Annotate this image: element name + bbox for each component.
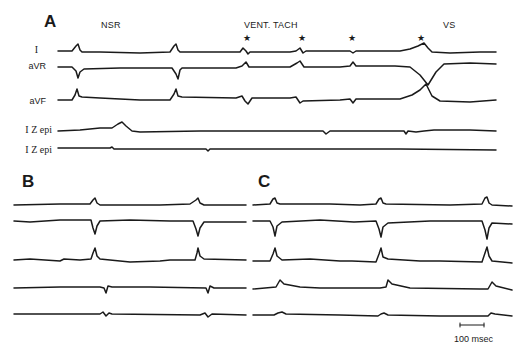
trace-b-row-1: [14, 198, 246, 205]
trace-b-row-3: [14, 248, 246, 262]
trace-a-lead-i: [58, 43, 496, 54]
trace-b-row-4: [14, 286, 246, 293]
trace-b-row-5: [14, 312, 246, 317]
trace-a-avf: [58, 84, 496, 104]
trace-c-row-4: [253, 280, 512, 290]
scale-bar: [460, 323, 484, 327]
trace-c-row-2: [253, 220, 512, 239]
trace-c-row-3: [253, 247, 512, 263]
trace-b-row-2: [14, 220, 246, 236]
trace-a-iz-epi-2: [58, 147, 496, 151]
trace-c-row-5: [253, 312, 512, 316]
trace-c-row-1: [253, 197, 512, 206]
trace-a-iz-epi-1: [58, 122, 496, 134]
trace-a-avr: [58, 61, 496, 85]
ecg-traces: [0, 0, 522, 353]
